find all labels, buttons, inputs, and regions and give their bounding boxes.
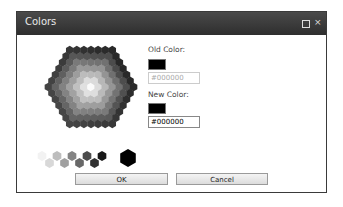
dialog-title: Colors	[25, 16, 56, 27]
gray-swatch[interactable]	[53, 151, 62, 161]
gray-swatch[interactable]	[45, 158, 54, 168]
title-bar[interactable]: Colors ×	[17, 12, 326, 35]
cancel-button[interactable]: Cancel	[176, 173, 268, 185]
old-color-label: Old Color:	[148, 45, 185, 54]
new-color-label: New Color:	[148, 90, 189, 99]
gray-swatch[interactable]	[68, 151, 77, 161]
gray-swatch[interactable]	[83, 151, 92, 161]
gray-swatch[interactable]	[98, 151, 107, 161]
colors-dialog: Colors × Old Color: #000000 New Color: #…	[16, 11, 327, 193]
gray-swatch[interactable]	[38, 151, 47, 161]
color-hexagon-picker[interactable]	[41, 37, 141, 137]
gray-swatch[interactable]	[60, 158, 69, 168]
close-icon[interactable]: ×	[314, 17, 322, 27]
old-color-field: #000000	[148, 72, 200, 84]
gray-swatch[interactable]	[75, 158, 84, 168]
old-color-swatch	[148, 59, 166, 70]
ok-button[interactable]: OK	[75, 173, 168, 185]
new-color-swatch	[148, 103, 166, 114]
maximize-icon[interactable]	[302, 20, 310, 28]
new-color-input[interactable]: #000000	[148, 116, 200, 128]
selected-gray-swatch[interactable]	[120, 149, 136, 167]
grayscale-picker[interactable]	[35, 145, 145, 173]
gray-swatch[interactable]	[90, 158, 99, 168]
